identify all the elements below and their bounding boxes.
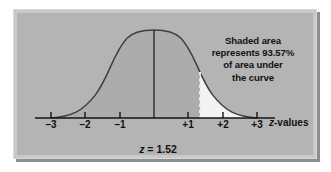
annotation-line-3: of area under <box>193 59 313 71</box>
figure-panel: Shaded area represents 93.57% of area un… <box>17 13 313 155</box>
annotation-line-1: Shaded area <box>193 35 313 47</box>
figure-frame: Shaded area represents 93.57% of area un… <box>13 9 317 159</box>
z-value-caption: z = 1.52 <box>103 143 213 155</box>
x-axis-label-text: -values <box>274 117 308 128</box>
tick-label-pos3: +3 <box>244 119 270 130</box>
figure-root: Shaded area represents 93.57% of area un… <box>0 0 331 172</box>
tick-label-neg1: –1 <box>107 119 133 130</box>
z-caption-value: = 1.52 <box>144 143 176 155</box>
shaded-area-annotation: Shaded area represents 93.57% of area un… <box>193 35 313 84</box>
tick-label-pos2: +2 <box>210 119 236 130</box>
tick-label-neg2: –2 <box>72 119 98 130</box>
x-axis-label: z-values <box>269 117 308 128</box>
annotation-line-4: the curve <box>193 72 313 84</box>
tick-label-neg3: –3 <box>38 119 64 130</box>
tick-label-pos1: +1 <box>175 119 201 130</box>
annotation-line-2: represents 93.57% <box>193 47 313 59</box>
